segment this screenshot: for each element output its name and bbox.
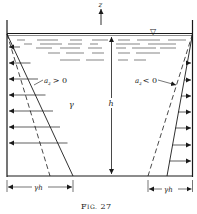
left-gamma-h-label: γh	[34, 184, 43, 192]
right-label-leader	[158, 80, 176, 85]
left-gamma-h-dimension: γh	[7, 180, 73, 192]
z-axis-label: z	[98, 1, 103, 9]
figure-caption: FIG.27	[81, 202, 112, 211]
left-pressure-arrows	[9, 47, 75, 159]
left-pressure-distribution: az> 0	[7, 34, 75, 176]
left-label-leader	[34, 80, 43, 85]
free-surface: ▽	[7, 27, 193, 60]
depth-label: h	[109, 99, 114, 108]
hydrostatic-pressure-diagram: z ▽ h γ	[0, 0, 197, 214]
surface-symbol: ▽	[150, 27, 157, 36]
z-axis: z	[98, 1, 103, 25]
right-dashed-envelope	[148, 34, 193, 176]
right-pressure-distribution: az< 0	[135, 34, 193, 176]
left-dashed-envelope	[7, 34, 50, 176]
water-hatching	[17, 40, 186, 60]
depth-dimension: h	[107, 37, 116, 174]
right-solid-envelope	[167, 34, 193, 176]
right-gamma-h-label: γh	[164, 186, 173, 194]
right-accel-label: az< 0	[135, 76, 157, 86]
container	[7, 20, 193, 177]
right-gamma-h-dimension: γh	[148, 180, 193, 194]
left-accel-label: az> 0	[44, 76, 67, 86]
density-label: γ	[69, 100, 74, 109]
left-solid-envelope	[7, 34, 73, 176]
